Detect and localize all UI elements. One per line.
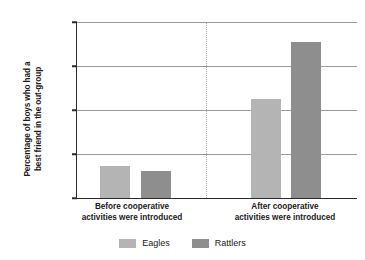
legend-item-rattlers: Rattlers [192,238,246,248]
bar-chart: Percentage of boys who had a best friend… [0,0,365,260]
y-axis-title-line-1: Percentage of boys who had a [22,24,33,214]
x-axis-label-after-line-2: activities were introduced [215,213,355,224]
plot-area: 010203040 [76,22,357,198]
gridline-40 [77,22,357,23]
y-tick-mark-20 [72,109,77,111]
bar-eagles-group-1 [251,99,281,198]
y-axis-title-line-2: best friend in the out-group [33,24,44,214]
y-tick-mark-10 [72,153,77,155]
legend-label-eagles: Eagles [142,238,170,248]
bar-rattlers-group-0 [141,171,171,198]
x-axis-label-before-line-1: Before cooperative [62,202,202,213]
x-axis-label-after: After cooperative activities were introd… [215,202,355,223]
x-axis-label-after-line-1: After cooperative [215,202,355,213]
plot-inner: 010203040 [77,22,357,198]
bar-rattlers-group-1 [291,42,321,198]
y-tick-mark-40 [72,21,77,23]
chart-legend: EaglesRattlers [0,238,365,248]
y-tick-mark-0 [72,197,77,199]
bar-eagles-group-0 [100,166,130,198]
legend-swatch-rattlers [192,239,209,248]
legend-item-eagles: Eagles [119,238,170,248]
x-axis-label-before: Before cooperative activities were intro… [62,202,202,223]
y-tick-mark-30 [72,65,77,67]
legend-swatch-eagles [119,239,136,248]
legend-label-rattlers: Rattlers [215,238,246,248]
x-axis-label-before-line-2: activities were introduced [62,213,202,224]
y-axis-title: Percentage of boys who had a best friend… [22,24,44,214]
